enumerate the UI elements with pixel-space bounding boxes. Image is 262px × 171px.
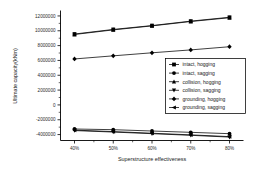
legend-label: grounding, hogging [183, 96, 226, 102]
series-collision-hogging [72, 15, 231, 36]
x-tick-label: 60% [147, 146, 156, 151]
legend-label: intact, sagging [183, 70, 215, 76]
data-point [189, 48, 193, 53]
legend-label: grounding, sagging [183, 104, 226, 110]
y-tick-label: 12000000 [35, 14, 56, 19]
legend-label: collision, sagging [183, 87, 221, 93]
legend-marker [172, 71, 176, 75]
data-point [150, 50, 154, 55]
x-tick-label: 80% [225, 146, 234, 151]
legend-marker [172, 63, 176, 67]
data-point [72, 57, 76, 62]
x-axis-title: Superstructure effectiveness [118, 156, 187, 162]
x-tick-label: 50% [109, 146, 118, 151]
y-tick-label: 0 [53, 103, 56, 108]
x-tick-label: 70% [186, 146, 195, 151]
y-axis-title: Ultimate capacity(kNm) [12, 48, 18, 104]
y-tick-label: 10000000 [35, 28, 56, 33]
legend-label: intact, hogging [183, 61, 216, 67]
y-tick-label: -4000000 [36, 132, 56, 137]
line-chart: 1200000010000000800000060000004000000200… [0, 0, 262, 171]
y-tick-label: -2000000 [36, 117, 56, 122]
legend-label: collision, hogging [183, 79, 222, 85]
data-point [111, 53, 115, 58]
y-tick-label: 6000000 [38, 58, 56, 63]
x-tick-label: 40% [70, 146, 79, 151]
legend: intact, hoggingintact, saggingcollision,… [166, 59, 246, 114]
y-tick-label: 4000000 [38, 73, 56, 78]
y-tick-label: 8000000 [38, 43, 56, 48]
chart-figure: 1200000010000000800000060000004000000200… [0, 0, 262, 171]
y-tick-label: 2000000 [38, 88, 56, 93]
data-point [227, 44, 231, 49]
